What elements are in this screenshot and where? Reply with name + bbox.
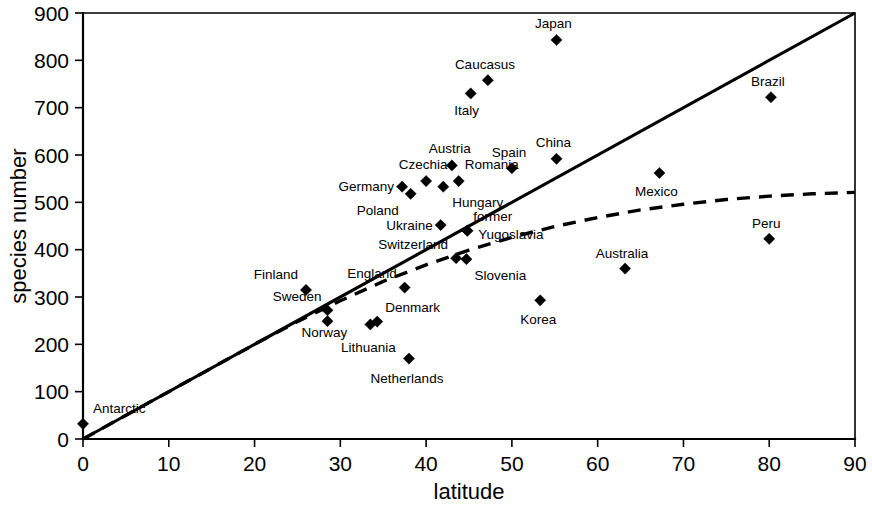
data-point-label: Germany (339, 179, 395, 194)
data-point-marker (465, 88, 476, 99)
data-point-label: England (347, 266, 397, 281)
data-point-label: Caucasus (455, 57, 515, 72)
data-point-marker (405, 188, 416, 199)
y-tick-label: 300 (34, 286, 69, 309)
data-point-marker (764, 233, 775, 244)
data-point-marker (403, 353, 414, 364)
y-tick-label: 200 (34, 333, 69, 356)
data-point-marker (551, 153, 562, 164)
data-point-label: Ukraine (386, 218, 433, 233)
data-point-label: Norway (302, 325, 348, 340)
data-point-label: Brazil (751, 74, 785, 89)
data-point-marker (620, 263, 631, 274)
data-point-label: Czechia (399, 157, 448, 172)
data-point-marker (765, 92, 776, 103)
data-point-marker (551, 34, 562, 45)
y-tick-label: 100 (34, 380, 69, 403)
data-point-label: Korea (520, 312, 557, 327)
data-point-label: Spain (492, 145, 527, 160)
data-point-marker (446, 160, 457, 171)
scatter-plot-figure: 0100200300400500600700800900 01020304050… (0, 0, 872, 509)
data-point-label: Lithuania (341, 340, 396, 355)
y-tick-label: 700 (34, 96, 69, 119)
data-point-marker (654, 167, 665, 178)
data-point-marker (482, 75, 493, 86)
x-tick-label: 30 (329, 452, 352, 475)
data-point-marker (435, 219, 446, 230)
y-tick-label: 900 (34, 2, 69, 25)
data-point-marker (438, 181, 449, 192)
data-point-label: Antarctic (93, 401, 146, 416)
y-tick-label: 600 (34, 144, 69, 167)
x-tick-label: 10 (157, 452, 180, 475)
data-point-label: Slovenia (474, 268, 526, 283)
data-point-marker (453, 175, 464, 186)
data-point-label: Switzerland (378, 237, 448, 252)
data-point-marker (462, 225, 473, 236)
linear-regression-line (83, 13, 855, 439)
data-point-marker (461, 254, 472, 265)
data-point-label: Hungary (452, 195, 503, 210)
y-tick-label: 800 (34, 49, 69, 72)
data-point-label: former (473, 209, 513, 224)
y-tick-label: 500 (34, 191, 69, 214)
x-tick-label: 50 (500, 452, 523, 475)
y-axis-ticks (75, 13, 83, 439)
data-point-marker (396, 181, 407, 192)
x-tick-label: 80 (758, 452, 781, 475)
x-tick-label: 70 (672, 452, 695, 475)
data-point-label: Denmark (385, 300, 440, 315)
data-point-label: Mexico (635, 184, 678, 199)
data-point-marker (421, 175, 432, 186)
y-axis-title: species number (6, 148, 31, 303)
x-tick-label: 40 (414, 452, 437, 475)
data-point-marker (399, 282, 410, 293)
data-point-label: Yugoslavia (478, 227, 544, 242)
x-axis-ticks (83, 439, 855, 447)
x-tick-label: 60 (586, 452, 609, 475)
y-tick-label: 400 (34, 238, 69, 261)
data-point-label: China (536, 135, 572, 150)
data-point-label: Italy (454, 103, 479, 118)
data-point-label: Poland (357, 203, 399, 218)
data-point-label: Finland (254, 267, 298, 282)
data-point-label: Netherlands (371, 371, 444, 386)
data-point-label: Peru (752, 216, 781, 231)
data-point-label: Austria (429, 141, 472, 156)
x-tick-label: 0 (77, 452, 89, 475)
data-point-group: AntarcticFinlandSwedenNorwayLithuaniaDen… (77, 16, 784, 429)
data-point-marker (77, 418, 88, 429)
data-point-label: Australia (596, 246, 649, 261)
data-point-label: Sweden (273, 289, 322, 304)
data-point-marker (535, 295, 546, 306)
y-axis-tick-labels: 0100200300400500600700800900 (34, 2, 69, 451)
x-tick-label: 20 (243, 452, 266, 475)
data-point-label: Japan (535, 16, 572, 31)
x-axis-tick-labels: 0102030405060708090 (77, 452, 867, 475)
y-tick-label: 0 (57, 428, 69, 451)
chart-svg: 0100200300400500600700800900 01020304050… (0, 0, 872, 509)
x-tick-label: 90 (843, 452, 866, 475)
x-axis-title: latitude (434, 479, 505, 504)
